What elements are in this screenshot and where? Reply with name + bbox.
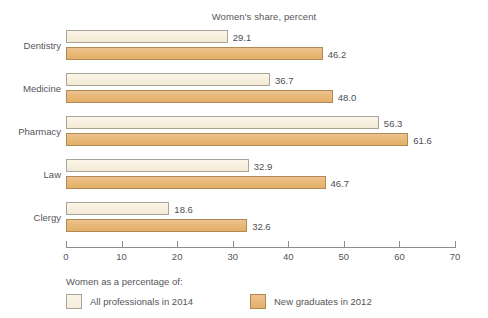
bar-pharmacy-series2[interactable] [66, 133, 408, 146]
bar-row: 18.6 [66, 202, 455, 215]
x-tick-label-10: 10 [116, 251, 127, 262]
legend-item-series1[interactable]: All professionals in 2014 [66, 294, 193, 309]
bar-row: 48.0 [66, 90, 455, 103]
plot-area: Dentistry29.146.2Medicine36.748.0Pharmac… [66, 30, 455, 242]
bar-dentistry-series1[interactable] [66, 30, 228, 43]
bar-value-label: 46.7 [331, 177, 350, 188]
x-tick-label-0: 0 [63, 251, 68, 262]
x-tick-20 [177, 241, 178, 248]
x-tick-label-30: 30 [227, 251, 238, 262]
bar-group: Law32.946.7 [66, 159, 455, 189]
bar-value-label: 61.6 [413, 134, 432, 145]
x-tick-10 [122, 241, 123, 248]
legend-swatch-dark [250, 294, 266, 309]
legend-items: All professionals in 2014New graduates i… [66, 294, 372, 309]
legend-item-series2[interactable]: New graduates in 2012 [250, 294, 372, 309]
bar-row: 61.6 [66, 133, 455, 146]
legend: Women as a percentage of: All profession… [66, 276, 372, 309]
x-tick-30 [233, 241, 234, 248]
x-tick-60 [399, 241, 400, 248]
bar-group: Medicine36.748.0 [66, 73, 455, 103]
x-tick-0 [66, 241, 67, 248]
x-tick-label-70: 70 [450, 251, 461, 262]
bar-law-series1[interactable] [66, 159, 249, 172]
bar-value-label: 29.1 [233, 31, 252, 42]
legend-title: Women as a percentage of: [66, 276, 372, 287]
x-tick-40 [288, 241, 289, 248]
bar-value-label: 48.0 [338, 91, 357, 102]
bar-row: 29.1 [66, 30, 455, 43]
bar-clergy-series2[interactable] [66, 219, 247, 232]
x-tick-label-20: 20 [172, 251, 183, 262]
x-tick-label-60: 60 [394, 251, 405, 262]
bar-value-label: 36.7 [275, 74, 294, 85]
chart-title: Women's share, percent [0, 11, 488, 22]
bar-group: Pharmacy56.361.6 [66, 116, 455, 146]
bar-value-label: 56.3 [384, 117, 403, 128]
bar-pharmacy-series1[interactable] [66, 116, 379, 129]
x-tick-label-40: 40 [283, 251, 294, 262]
category-label-dentistry: Dentistry [24, 40, 61, 51]
category-label-law: Law [44, 169, 61, 180]
bar-medicine-series2[interactable] [66, 90, 333, 103]
bar-medicine-series1[interactable] [66, 73, 270, 86]
legend-label: All professionals in 2014 [90, 296, 193, 307]
x-tick-label-50: 50 [339, 251, 350, 262]
legend-label: New graduates in 2012 [274, 296, 372, 307]
bar-row: 46.2 [66, 47, 455, 60]
chart-container: Women's share, percent Dentistry29.146.2… [0, 0, 488, 318]
x-tick-50 [344, 241, 345, 248]
bar-law-series2[interactable] [66, 176, 326, 189]
category-label-medicine: Medicine [23, 83, 61, 94]
category-label-pharmacy: Pharmacy [18, 126, 61, 137]
bar-dentistry-series2[interactable] [66, 47, 323, 60]
bar-row: 46.7 [66, 176, 455, 189]
bar-group: Clergy18.632.6 [66, 202, 455, 232]
bar-value-label: 32.9 [254, 160, 273, 171]
bar-row: 56.3 [66, 116, 455, 129]
x-tick-70 [455, 241, 456, 248]
bar-group: Dentistry29.146.2 [66, 30, 455, 60]
bar-value-label: 18.6 [174, 203, 193, 214]
category-label-clergy: Clergy [34, 212, 61, 223]
x-axis-line [66, 247, 456, 248]
legend-swatch-light [66, 294, 82, 309]
bar-value-label: 32.6 [252, 220, 271, 231]
bar-clergy-series1[interactable] [66, 202, 169, 215]
bar-value-label: 46.2 [328, 48, 347, 59]
bar-row: 36.7 [66, 73, 455, 86]
bar-row: 32.9 [66, 159, 455, 172]
bar-row: 32.6 [66, 219, 455, 232]
